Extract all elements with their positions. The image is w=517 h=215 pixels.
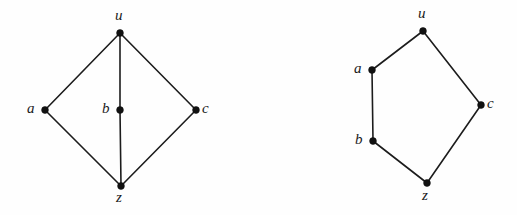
graph-vertex-a — [369, 67, 376, 74]
vertex-label-b: b — [355, 132, 363, 147]
graph-vertex-z — [424, 180, 431, 187]
vertex-label-z: z — [116, 190, 122, 205]
vertex-label-u: u — [418, 6, 426, 21]
graph-vertex-u — [420, 28, 427, 35]
graph-vertex-a — [42, 107, 49, 114]
graph-edge-u-c — [120, 33, 196, 110]
vertex-label-z: z — [422, 188, 428, 203]
graph-edge-u-a — [372, 31, 423, 70]
graph-edge-a-z — [45, 110, 121, 186]
vertex-label-a: a — [354, 61, 362, 76]
graph-canvas — [0, 0, 517, 215]
graph-vertex-b — [370, 138, 377, 145]
graph-edge-c-z — [427, 105, 481, 183]
graph-edge-b-z — [373, 141, 427, 183]
vertex-label-u: u — [115, 8, 123, 23]
graph-edge-u-c — [423, 31, 481, 105]
graph-vertex-b — [117, 107, 124, 114]
graph-edge-a-b — [372, 70, 373, 141]
graph-vertex-c — [193, 107, 200, 114]
vertex-label-a: a — [27, 101, 35, 116]
vertex-label-c: c — [487, 96, 494, 111]
graph-edge-u-a — [45, 33, 120, 110]
edges-layer — [45, 31, 481, 186]
graph-edge-b-z — [120, 110, 121, 186]
graph-vertex-c — [478, 102, 485, 109]
graph-edge-c-z — [121, 110, 196, 186]
vertex-label-c: c — [202, 101, 209, 116]
graph-figure: uabczuacbz — [0, 0, 517, 215]
graph-vertex-u — [117, 30, 124, 37]
vertex-label-b: b — [102, 101, 110, 116]
